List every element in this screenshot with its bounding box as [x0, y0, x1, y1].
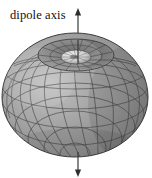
dimple-center	[70, 55, 78, 59]
dipole-axis-label: dipole axis	[10, 8, 66, 22]
figure-canvas	[0, 0, 152, 178]
dipole-radiation-figure	[0, 0, 152, 178]
